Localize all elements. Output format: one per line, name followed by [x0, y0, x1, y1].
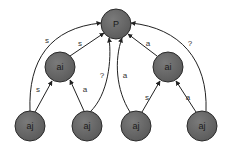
node-aj1: aj — [15, 111, 45, 141]
node-label: aj — [83, 121, 90, 131]
edge-ai1-to-P — [70, 33, 104, 56]
node-label: aj — [198, 121, 205, 131]
edge-label: s — [36, 85, 40, 94]
node-P: P — [101, 9, 131, 39]
edge-label: a — [123, 71, 128, 80]
edge-ai2-to-P — [128, 34, 157, 56]
edge-label: a — [186, 93, 191, 102]
node-aj2: aj — [72, 111, 102, 141]
node-label: ai — [56, 62, 63, 72]
node-label: aj — [26, 121, 33, 131]
node-aj3: aj — [121, 111, 151, 141]
relation-diagram: sssa?asaa? Paiaiajajajaj — [0, 0, 232, 156]
edge-label: s — [45, 36, 49, 45]
node-aj4: aj — [187, 111, 217, 141]
node-label: aj — [132, 121, 139, 131]
edge-label: ? — [188, 39, 193, 48]
node-ai2: ai — [153, 52, 183, 82]
nodes-layer: Paiaiajajajaj — [15, 9, 217, 141]
edge-label: a — [83, 85, 88, 94]
edge-label: a — [146, 39, 151, 48]
node-ai1: ai — [45, 52, 75, 82]
edge-label: s — [78, 39, 82, 48]
node-label: P — [113, 19, 119, 29]
edge-label: ? — [100, 71, 105, 80]
node-label: ai — [164, 62, 171, 72]
edge-label: s — [145, 93, 149, 102]
